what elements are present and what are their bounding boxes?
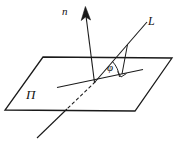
line-label: L xyxy=(148,15,155,27)
plane-parallelogram xyxy=(5,57,172,111)
plane-label: Π xyxy=(26,88,35,101)
angle-label: φ xyxy=(107,62,113,73)
line-L-below-plane xyxy=(37,109,67,138)
normal-vector-label: n xyxy=(62,6,68,17)
geometry-figure: n L φ Π xyxy=(0,0,178,150)
